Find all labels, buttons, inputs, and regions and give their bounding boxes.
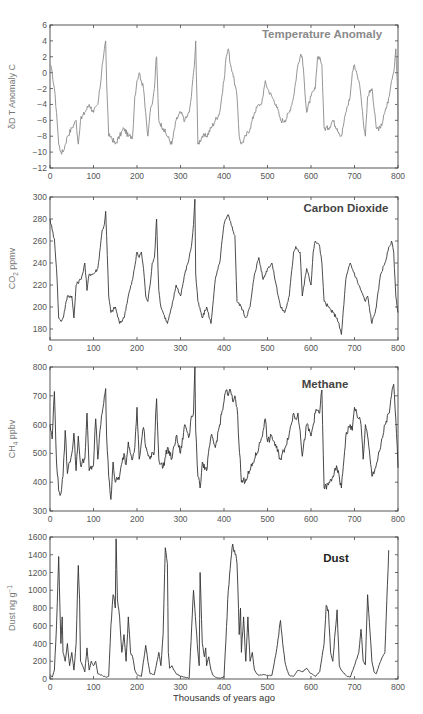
x-tick-label: 200 xyxy=(130,682,144,692)
co2-title: Carbon Dioxide xyxy=(304,202,389,214)
y-tick-label: 1600 xyxy=(28,532,47,542)
temperature-title: Temperature Anomaly xyxy=(262,28,383,40)
x-axis-label: Thousands of years ago xyxy=(173,692,275,703)
y-tick-label: 0 xyxy=(42,68,47,78)
dust-panel: 0100200300400500600700800020040060080010… xyxy=(0,512,423,714)
y-tick-label: 1200 xyxy=(28,568,47,578)
co2-series-line xyxy=(50,199,398,334)
y-tick-label: 600 xyxy=(33,420,47,430)
y-tick-label: 600 xyxy=(33,621,47,631)
y-tick-label: 1000 xyxy=(28,585,47,595)
y-tick-label: 4 xyxy=(42,36,47,46)
x-tick-label: 800 xyxy=(391,682,405,692)
x-tick-label: 400 xyxy=(217,682,231,692)
y-tick-label: 0 xyxy=(42,674,47,684)
y-tick-label: −6 xyxy=(37,115,47,125)
co2-y-axis-label: CO2 ppmv xyxy=(7,247,19,289)
x-tick-label: 500 xyxy=(260,682,274,692)
dust-y-axis-label: Dust ng g−1 xyxy=(6,585,17,631)
y-tick-label: −8 xyxy=(37,131,47,141)
methane-y-axis-label: CH4 ppbv xyxy=(7,419,19,458)
co2-plot-frame xyxy=(50,197,398,340)
y-tick-label: 300 xyxy=(33,192,47,202)
x-tick-label: 0 xyxy=(48,682,53,692)
y-tick-label: 2 xyxy=(42,52,47,62)
y-tick-label: 260 xyxy=(33,236,47,246)
y-tick-label: 180 xyxy=(33,324,47,334)
y-tick-label: 6 xyxy=(42,20,47,30)
dust-chart: 0100200300400500600700800020040060080010… xyxy=(0,512,423,714)
dust-title: Dust xyxy=(323,552,349,564)
methane-chart: 0100200300400500600700800300400500600700… xyxy=(0,342,423,527)
y-tick-label: 400 xyxy=(33,639,47,649)
x-tick-label: 300 xyxy=(173,682,187,692)
co2-chart: 0100200300400500600700800180200220240260… xyxy=(0,172,423,357)
y-tick-label: 200 xyxy=(33,656,47,666)
y-tick-label: 400 xyxy=(33,477,47,487)
y-tick-label: 220 xyxy=(33,280,47,290)
x-tick-label: 600 xyxy=(304,682,318,692)
y-tick-label: −2 xyxy=(37,84,47,94)
temperature-series-line xyxy=(50,41,398,154)
y-tick-label: 200 xyxy=(33,302,47,312)
temperature-plot-frame xyxy=(50,25,398,168)
y-tick-label: 500 xyxy=(33,448,47,458)
x-tick-label: 700 xyxy=(347,682,361,692)
methane-title: Methane xyxy=(302,378,349,390)
y-tick-label: 280 xyxy=(33,214,47,224)
co2-panel: 0100200300400500600700800180200220240260… xyxy=(0,172,423,357)
temperature-chart: 0100200300400500600700800−12−10−8−6−4−20… xyxy=(0,0,423,185)
temperature-panel: 0100200300400500600700800−12−10−8−6−4−20… xyxy=(0,0,423,185)
y-tick-label: 1400 xyxy=(28,550,47,560)
temperature-y-axis-label: δD T Anomaly C xyxy=(7,63,17,129)
y-tick-label: −10 xyxy=(33,147,48,157)
y-tick-label: 800 xyxy=(33,362,47,372)
y-tick-label: 800 xyxy=(33,603,47,613)
y-tick-label: 240 xyxy=(33,258,47,268)
methane-panel: 0100200300400500600700800300400500600700… xyxy=(0,342,423,527)
x-tick-label: 100 xyxy=(86,682,100,692)
y-tick-label: 700 xyxy=(33,391,47,401)
y-tick-label: −4 xyxy=(37,99,47,109)
